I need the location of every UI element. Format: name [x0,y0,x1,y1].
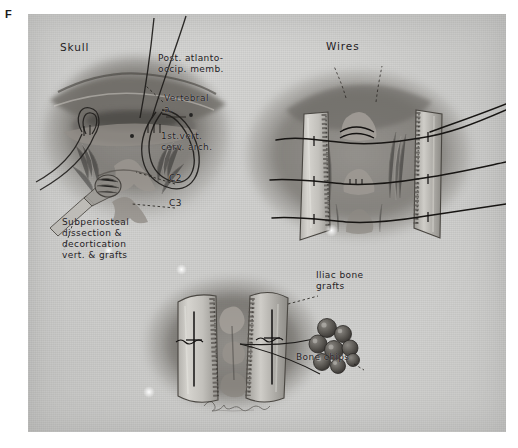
label-skull: Skull [60,41,89,53]
label-wires: Wires [326,40,360,52]
figure-letter: F [5,8,12,20]
illustration-plate: Skull Post. atlanto- occip. memb. Verteb… [28,14,506,432]
label-c2: C2 [169,173,182,184]
artist-signature [204,401,270,411]
label-vertebral-artery: Vertebral a. [164,93,209,115]
emulsion-speck [325,224,338,237]
label-bone-chips: Bone chips [296,352,349,363]
emulsion-speck [176,264,187,275]
label-iliac-bone-grafts: Iliac bone grafts [316,270,363,292]
emulsion-speck [143,386,155,398]
label-posterior-atlanto-occipital-membrane: Post. atlanto- occip. memb. [158,53,224,75]
panel-upper-right-anatomy [246,66,506,240]
label-first-cervical-vertebral-arch: 1st.vert. cerv. arch. [161,131,212,153]
panel-lower-center-anatomy [145,278,360,410]
bone-chips-cluster [309,319,360,374]
label-c3: C3 [169,198,182,209]
label-subperiosteal-dissection: Subperiosteal dissection & decortication… [62,217,129,261]
